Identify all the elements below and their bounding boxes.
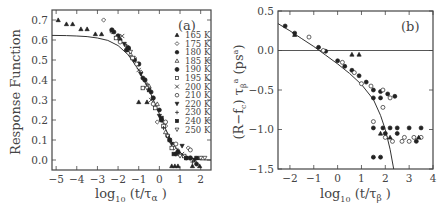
svg-text:0.0: 0.0 (31, 154, 48, 166)
svg-text:0.1: 0.1 (31, 134, 48, 146)
svg-text:−1.0: −1.0 (249, 123, 275, 135)
panel-b-label: (b) (401, 19, 419, 34)
figure: −5−4−3−2−10120.00.10.20.30.40.50.60.7 (a… (0, 0, 442, 210)
svg-text:250 K: 250 K (185, 125, 211, 135)
svg-text:2: 2 (382, 172, 389, 184)
svg-text:−1: −1 (306, 172, 321, 184)
svg-text:−0.5: −0.5 (249, 84, 275, 96)
panel-b-frame (278, 11, 433, 169)
svg-text:1: 1 (177, 173, 184, 185)
svg-text:0.5: 0.5 (257, 5, 274, 17)
svg-text:0: 0 (334, 172, 341, 184)
svg-text:3: 3 (406, 172, 413, 184)
svg-text:4: 4 (430, 172, 437, 184)
panel-a-y-axis-label: Response Function (8, 28, 23, 154)
svg-text:0.4: 0.4 (31, 74, 48, 86)
svg-text:−2: −2 (282, 172, 297, 184)
panel-a-legend: 165 K175 K180 K185 K190 K195 K200 K210 K… (175, 30, 211, 135)
panel-b: −2−1012340.50.0−0.5−1.0−1.5 (b) (R−fc) τ… (231, 5, 437, 205)
svg-text:2: 2 (197, 173, 204, 185)
svg-text:−1: −1 (131, 173, 146, 185)
svg-text:−2: −2 (110, 173, 125, 185)
svg-text:−3: −3 (90, 173, 105, 185)
svg-text:−1.5: −1.5 (249, 163, 275, 175)
panel-a-x-axis-label: log10 (t/τα ) (95, 186, 167, 204)
panel-b-x-axis-label: log10 (t/τβ ) (320, 186, 391, 204)
svg-text:0.3: 0.3 (31, 94, 48, 106)
panel-a: −5−4−3−2−10120.00.10.20.30.40.50.60.7 (a… (8, 10, 211, 204)
svg-text:−5: −5 (48, 173, 63, 185)
panel-b-data-points (283, 24, 423, 159)
panel-b-fit-curve (278, 24, 394, 169)
panel-b-y-axis-label: (R−fc) τβa (psa) (231, 45, 248, 140)
svg-text:0.7: 0.7 (31, 14, 48, 26)
svg-text:0.2: 0.2 (31, 114, 48, 126)
svg-text:0.6: 0.6 (31, 34, 48, 46)
svg-text:0: 0 (156, 173, 163, 185)
svg-text:1: 1 (358, 172, 365, 184)
svg-text:−4: −4 (69, 173, 85, 185)
svg-text:0.5: 0.5 (31, 54, 48, 66)
svg-text:0.0: 0.0 (257, 44, 274, 56)
